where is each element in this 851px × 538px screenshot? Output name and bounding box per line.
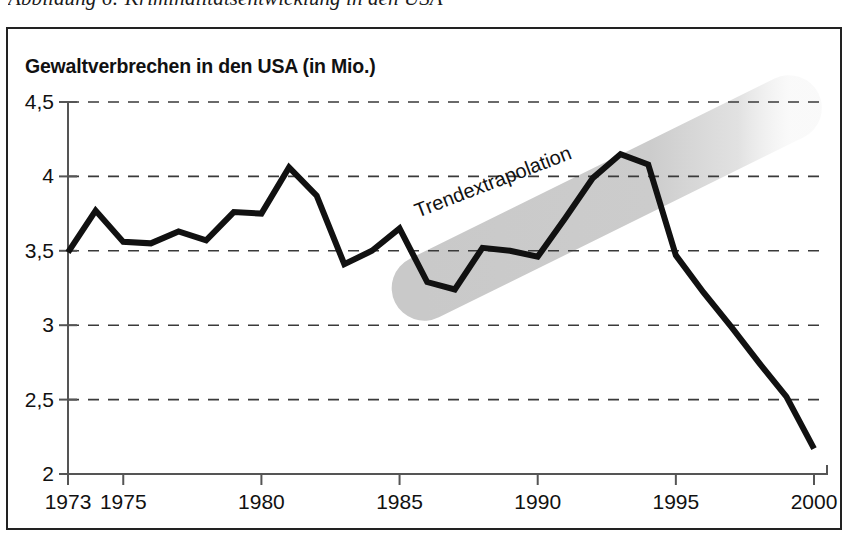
x-tick-label: 1975 [100,490,147,514]
x-tick-label: 1973 [45,490,92,514]
x-tick-label: 1985 [376,490,423,514]
figure-caption: Abbildung 6: Kriminalitätsentwicklung in… [8,0,708,12]
y-tick-label: 3 [42,313,54,337]
x-tick-label: 1990 [514,490,561,514]
line-chart-svg [8,29,844,532]
chart-frame: Gewaltverbrechen in den USA (in Mio.) [6,27,842,530]
y-tick-label: 4 [42,164,54,188]
y-tick-label: 2,5 [25,388,54,412]
y-tick-label: 2 [42,462,54,486]
y-tick-label: 3,5 [25,239,54,263]
y-tick-label: 4,5 [25,90,54,114]
x-tick-label: 2000 [791,490,838,514]
x-tick-label: 1995 [652,490,699,514]
x-tick-label: 1980 [238,490,285,514]
plot-area: 4,543,532,52 197319751980198519901995200… [8,29,844,532]
